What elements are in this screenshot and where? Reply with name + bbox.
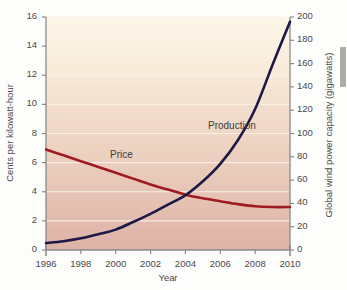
series-annotation-price: Price xyxy=(110,149,133,160)
plot-area xyxy=(0,0,347,290)
y-tick-label-right: 120 xyxy=(297,103,323,114)
y-tick-label-right: 20 xyxy=(297,220,323,231)
y-tick-label-right: 60 xyxy=(297,173,323,184)
y-tick-label-left: 12 xyxy=(13,68,37,79)
y-tick-label-right: 200 xyxy=(297,10,323,21)
series-annotation-production: Production xyxy=(208,120,256,131)
y-tick-label-left: 4 xyxy=(13,185,37,196)
x-tick-label: 2006 xyxy=(203,258,237,269)
x-tick-label: 2008 xyxy=(238,258,272,269)
y-tick-label-right: 40 xyxy=(297,196,323,207)
x-tick-label: 1996 xyxy=(29,258,63,269)
y-tick-label-left: 2 xyxy=(13,214,37,225)
y-tick-label-right: 180 xyxy=(297,33,323,44)
y-tick-label-right: 80 xyxy=(297,150,323,161)
x-tick-label: 2004 xyxy=(168,258,202,269)
x-tick-label: 1998 xyxy=(64,258,98,269)
x-tick-label: 2002 xyxy=(134,258,168,269)
y-tick-label-right: 100 xyxy=(297,127,323,138)
chart-figure: Cents per kilowatt-hour Global wind powe… xyxy=(0,0,347,290)
x-tick-label: 2010 xyxy=(273,258,307,269)
y-tick-label-left: 6 xyxy=(13,156,37,167)
y-tick-label-right: 160 xyxy=(297,57,323,68)
y-tick-label-left: 16 xyxy=(13,10,37,21)
scan-edge-artifact xyxy=(340,47,346,87)
y-tick-label-left: 14 xyxy=(13,39,37,50)
y-tick-label-left: 8 xyxy=(13,127,37,138)
y-tick-label-right: 140 xyxy=(297,80,323,91)
y-tick-label-right: 0 xyxy=(297,243,323,254)
x-tick-label: 2000 xyxy=(99,258,133,269)
y-tick-label-left: 10 xyxy=(13,97,37,108)
y-tick-label-left: 0 xyxy=(13,243,37,254)
